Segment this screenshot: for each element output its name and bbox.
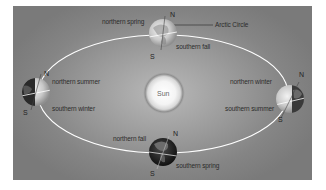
south-pole-right: S <box>278 116 283 123</box>
earth-globe-top <box>149 16 177 50</box>
north-pole-bottom: N <box>173 130 178 137</box>
label-southern-winter: southern winter <box>52 106 95 113</box>
south-pole-top: S <box>150 53 155 60</box>
label-northern-summer: northern summer <box>52 79 100 86</box>
earth-globe-left <box>21 74 51 110</box>
sun-label: Sun <box>157 90 169 97</box>
label-southern-summer: southern summer <box>225 106 274 113</box>
diagram-panel: Sun Arctic Circle northern spring southe… <box>13 6 312 180</box>
label-southern-fall: southern fall <box>176 44 210 51</box>
south-pole-left: S <box>23 109 28 116</box>
label-northern-spring: northern spring <box>102 19 144 26</box>
arctic-circle-label: Arctic Circle <box>215 22 248 29</box>
north-pole-right: N <box>299 71 304 78</box>
label-northern-winter: northern winter <box>230 79 272 86</box>
south-pole-bottom: S <box>150 170 155 177</box>
label-southern-spring: southern spring <box>176 163 219 170</box>
north-pole-left: N <box>44 70 49 77</box>
earth-globe-bottom <box>149 136 177 169</box>
north-pole-top: N <box>170 11 175 18</box>
label-northern-fall: northern fall <box>113 136 146 143</box>
earth-globe-right <box>275 82 305 118</box>
